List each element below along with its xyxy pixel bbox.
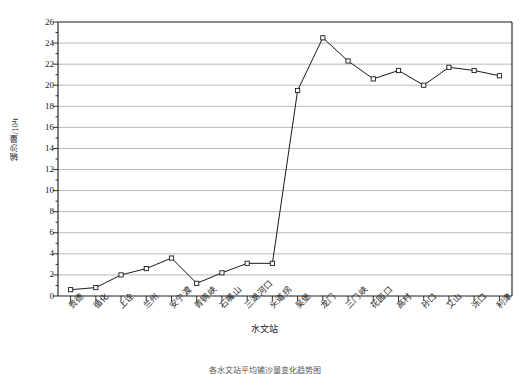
x-axis-tick-label: 艾山 xyxy=(445,291,464,310)
x-axis-tick-label: 石嘴山 xyxy=(218,285,243,310)
x-axis-tick-label: 三门峡 xyxy=(344,285,369,310)
x-axis-tick-label: 泺口 xyxy=(470,291,489,310)
chart-container: 输沙量/10⁴t 02468101214161820222426 贵德循化上诠兰… xyxy=(0,0,529,374)
x-axis-tick-label: 贵德 xyxy=(67,291,86,310)
x-axis-tick-label: 花园口 xyxy=(369,285,394,310)
x-axis-tick-label: 头道拐 xyxy=(268,285,293,310)
x-axis-tick-label: 龙门 xyxy=(319,291,338,310)
x-axis-tick-label: 孙口 xyxy=(420,291,439,310)
x-axis-tick-label: 高村 xyxy=(395,291,414,310)
x-axis-tick-labels: 贵德循化上诠兰州安宁渡青铜峡石嘴山三湖河口头道拐吴堡龙门三门峡花园口高村孙口艾山… xyxy=(0,0,529,374)
x-axis-tick-label: 循化 xyxy=(92,291,111,310)
x-axis-tick-label: 利津 xyxy=(495,291,514,310)
x-axis-title: 水文站 xyxy=(0,322,529,335)
x-axis-tick-label: 吴堡 xyxy=(294,291,313,310)
x-axis-tick-label: 上诠 xyxy=(117,291,136,310)
x-axis-tick-label: 青铜峡 xyxy=(193,285,218,310)
figure-caption: 各水文站平均输沙量变化趋势图 xyxy=(0,364,529,374)
x-axis-tick-label: 兰州 xyxy=(142,291,161,310)
x-axis-tick-label: 安宁渡 xyxy=(168,285,193,310)
